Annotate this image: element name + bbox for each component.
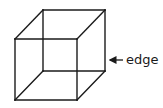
cube-edge-connect-top-left bbox=[15, 10, 43, 39]
cube-edge-connect-top-right bbox=[77, 10, 105, 39]
cube bbox=[15, 10, 105, 100]
edge-label: edge bbox=[126, 52, 159, 67]
edge-callout: edge bbox=[110, 52, 159, 67]
cube-edge-connect-bottom-right bbox=[77, 71, 105, 100]
cube-diagram: edge bbox=[0, 0, 163, 108]
cube-edge-connect-bottom-left bbox=[15, 71, 43, 100]
